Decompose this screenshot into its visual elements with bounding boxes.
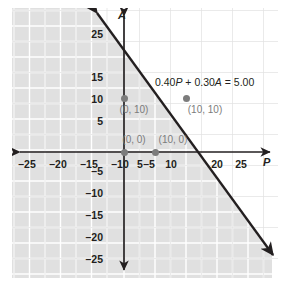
point-dot-0-0 — [121, 149, 128, 156]
y-tick-neg-20: –20 — [85, 232, 103, 243]
x-tick-5: 5 — [137, 159, 143, 170]
x-tick-neg-10: –10 — [111, 159, 129, 170]
point-label-0-0: (0, 0) — [122, 135, 145, 145]
equation-prefix: 0.40 — [155, 76, 175, 88]
point-label-10-0: (10, 0) — [159, 135, 188, 145]
y-tick-15: 15 — [91, 72, 103, 83]
equation-annotation: 0.40P + 0.30A = 5.00 — [155, 77, 254, 88]
y-tick-10: 10 — [91, 94, 103, 105]
x-axis-label: P — [263, 157, 270, 168]
point-dot-0-10 — [121, 95, 128, 102]
x-tick-25: 25 — [235, 159, 247, 170]
x-tick-10: 10 — [165, 159, 177, 170]
x-tick-neg-20: –20 — [49, 159, 67, 170]
point-dot-10-10 — [183, 95, 190, 102]
y-axis-label: A — [118, 10, 126, 21]
equation-suffix: = 5.00 — [222, 76, 254, 88]
y-tick-5: 5 — [97, 116, 103, 127]
equation-var-a: A — [215, 76, 222, 88]
point-label-0-10: (0, 10) — [120, 105, 149, 115]
x-tick-neg-25: –25 — [18, 159, 36, 170]
x-tick-20: 20 — [211, 159, 223, 170]
y-tick-neg-25: –25 — [85, 254, 103, 265]
graph-figure: 25 15 10 5 –5 –10 –15 –20 –25 –25 –20 –1… — [0, 0, 282, 286]
point-label-10-10: (10, 10) — [188, 105, 222, 115]
x-tick-neg-5: –5 — [143, 159, 155, 170]
point-dot-10-0 — [152, 149, 159, 156]
x-tick-neg-15: –15 — [80, 159, 98, 170]
y-tick-neg-15: –15 — [85, 210, 103, 221]
y-tick-neg-10: –10 — [85, 188, 103, 199]
equation-middle: + 0.30 — [182, 76, 214, 88]
y-tick-25: 25 — [91, 29, 103, 40]
